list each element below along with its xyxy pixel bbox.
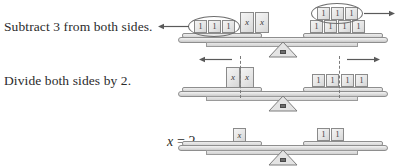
right-pan-surface xyxy=(303,141,383,146)
fulcrum-knob xyxy=(280,104,286,108)
step-2-balance-scale: x x 1 1 1 1 xyxy=(178,58,388,110)
step-1-label: Subtract 3 from both sides. xyxy=(4,20,153,34)
step-3-balance-scale: x 1 1 xyxy=(178,112,388,164)
scale-fulcrum xyxy=(268,41,298,58)
left-variable-block[interactable]: x xyxy=(240,12,254,33)
scale-fulcrum xyxy=(268,95,298,112)
left-variable-block[interactable]: x xyxy=(240,67,254,88)
right-unit-block[interactable]: 1 xyxy=(341,74,354,87)
left-variable-block[interactable]: x xyxy=(255,12,269,33)
step-2-label: Divide both sides by 2. xyxy=(4,74,131,88)
left-split-arrow-icon xyxy=(199,56,233,63)
left-variable-block[interactable]: x xyxy=(226,67,240,88)
right-unit-block[interactable]: 1 xyxy=(352,20,365,33)
right-removal-arrow-icon xyxy=(363,10,395,17)
right-removal-oval xyxy=(311,3,363,24)
left-removal-arrow-icon xyxy=(158,23,190,30)
fulcrum-knob xyxy=(280,158,286,162)
left-pan-surface xyxy=(182,141,262,146)
right-unit-block[interactable]: 1 xyxy=(331,128,344,141)
right-unit-block[interactable]: 1 xyxy=(355,74,368,87)
left-variable-block[interactable]: x xyxy=(233,128,246,142)
left-split-dashed-line xyxy=(240,56,241,98)
left-removal-oval xyxy=(188,16,240,37)
fulcrum-knob xyxy=(280,50,286,54)
right-split-arrow-icon xyxy=(346,56,380,63)
right-pan-surface xyxy=(303,87,383,92)
scale-fulcrum xyxy=(268,149,298,166)
right-split-dashed-line xyxy=(339,56,340,98)
right-pan-surface xyxy=(303,33,383,38)
right-unit-block[interactable]: 1 xyxy=(326,74,339,87)
step-1-balance-scale: 1 1 1 x x 1 1 1 1 1 1 1 xyxy=(178,4,388,56)
right-unit-block[interactable]: 1 xyxy=(317,128,330,141)
right-unit-block[interactable]: 1 xyxy=(312,74,325,87)
